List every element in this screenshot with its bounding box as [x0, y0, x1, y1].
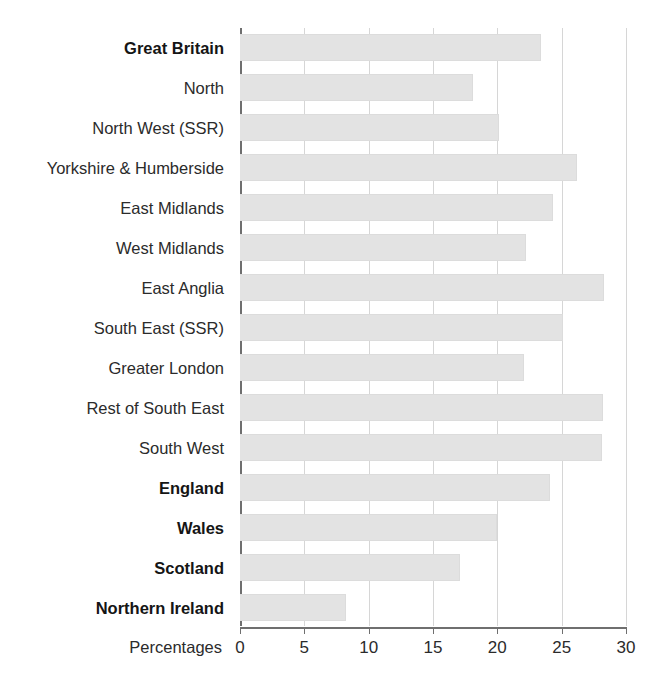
category-label: Scotland: [0, 548, 232, 588]
tick-mark-5: [304, 627, 305, 634]
tick-mark-30: [626, 627, 627, 634]
tick-label-20: 20: [467, 638, 527, 658]
bar: [240, 274, 604, 301]
bar: [240, 434, 602, 461]
bar-row: [240, 188, 626, 228]
bar-row: [240, 548, 626, 588]
bar-row: [240, 148, 626, 188]
category-label: East Anglia: [0, 268, 232, 308]
bar-row: [240, 68, 626, 108]
category-label: Wales: [0, 508, 232, 548]
tick-mark-15: [433, 627, 434, 634]
bar-row: [240, 348, 626, 388]
tick-mark-20: [497, 627, 498, 634]
bar-row: [240, 228, 626, 268]
category-label: South East (SSR): [0, 308, 232, 348]
bar: [240, 194, 553, 221]
bar-row: [240, 508, 626, 548]
bar-row: [240, 28, 626, 68]
tick-mark-0: [240, 627, 241, 634]
category-axis-labels: Great BritainNorthNorth West (SSR)Yorksh…: [0, 28, 232, 626]
category-label: Rest of South East: [0, 388, 232, 428]
category-label: West Midlands: [0, 228, 232, 268]
bar-row: [240, 588, 626, 628]
bar: [240, 154, 577, 181]
bar: [240, 74, 473, 101]
category-label: Greater London: [0, 348, 232, 388]
category-label: North: [0, 68, 232, 108]
x-axis-title: Percentages: [129, 638, 222, 657]
tick-label-30: 30: [596, 638, 656, 658]
gridline-30: [626, 28, 627, 626]
bar: [240, 354, 524, 381]
tick-mark-10: [369, 627, 370, 634]
bar: [240, 34, 541, 61]
category-label: East Midlands: [0, 188, 232, 228]
category-label: Yorkshire & Humberside: [0, 148, 232, 188]
bar-row: [240, 108, 626, 148]
tick-label-10: 10: [339, 638, 399, 658]
bar: [240, 554, 460, 581]
plot-area: [240, 28, 626, 626]
bar-series: [240, 28, 626, 626]
tick-label-5: 5: [274, 638, 334, 658]
tick-label-15: 15: [403, 638, 463, 658]
bar-chart: Great BritainNorthNorth West (SSR)Yorksh…: [0, 0, 665, 691]
bar-row: [240, 468, 626, 508]
category-label: England: [0, 468, 232, 508]
tick-label-25: 25: [532, 638, 592, 658]
category-label: Great Britain: [0, 28, 232, 68]
category-label: South West: [0, 428, 232, 468]
bar: [240, 514, 497, 541]
bar-row: [240, 388, 626, 428]
category-label: North West (SSR): [0, 108, 232, 148]
tick-mark-25: [562, 627, 563, 634]
bar: [240, 234, 526, 261]
bar: [240, 394, 603, 421]
bar-row: [240, 268, 626, 308]
bar-row: [240, 308, 626, 348]
category-label: Northern Ireland: [0, 588, 232, 628]
bar-row: [240, 428, 626, 468]
bar: [240, 314, 563, 341]
bar: [240, 474, 550, 501]
bar: [240, 114, 499, 141]
bar: [240, 594, 346, 621]
scan-artifact: [0, 0, 665, 6]
